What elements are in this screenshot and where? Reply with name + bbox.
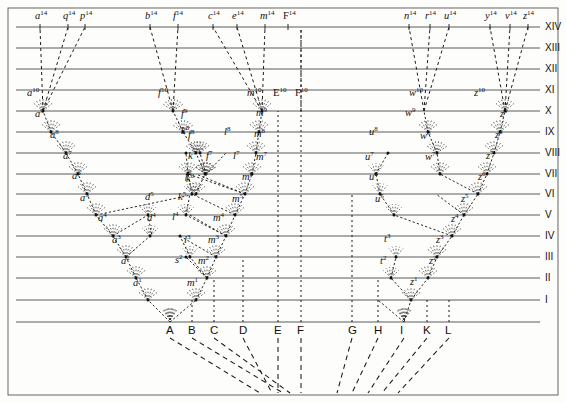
row-label-m10: m10	[247, 88, 262, 99]
node-label-m7: m7	[256, 152, 267, 163]
node-z6	[477, 193, 480, 196]
hair-m3-4	[213, 246, 216, 257]
top-label-c14: c14	[208, 11, 220, 22]
top-label-u14: u14	[444, 11, 456, 22]
baseline-species-C: C	[210, 325, 218, 337]
hair-m2-4	[204, 267, 207, 278]
node-label-k7: k7	[188, 151, 196, 162]
descent-line-K	[382, 338, 427, 393]
node-label-a6: a6	[72, 171, 81, 182]
hair-t3-1	[396, 247, 400, 257]
node-u5	[393, 214, 396, 217]
baseline-species-B: B	[188, 325, 196, 337]
hair-t3-3	[392, 247, 396, 257]
row-label-E10: E10	[273, 88, 286, 99]
node-label-a9: a9	[35, 109, 44, 120]
top-label-F14: F14	[283, 11, 296, 22]
variation-hairs	[34, 98, 514, 320]
hair-z2-4	[425, 267, 428, 278]
node-m4	[225, 235, 228, 238]
node-label-z5: z5	[461, 194, 469, 205]
node-label-l4: l4	[172, 212, 178, 223]
branch-w6b	[436, 194, 464, 215]
node-m5	[234, 214, 237, 217]
node-label-w9: w9	[405, 108, 416, 119]
hair-t2-3	[389, 267, 391, 278]
roman-numeral-XIII: XIII	[545, 43, 560, 53]
node-label-l7: l7	[233, 151, 239, 162]
node-m2	[206, 277, 209, 280]
node-m3	[215, 256, 218, 259]
node-label-a1: a1	[133, 278, 142, 289]
node-l4	[179, 235, 182, 238]
node-f7	[204, 173, 207, 176]
node-label-u5: u5	[375, 194, 384, 205]
node-label-t3: t3	[384, 234, 390, 245]
node-k6	[191, 193, 194, 196]
node-label-z9: z9	[500, 109, 508, 120]
hair-l7-2	[206, 162, 211, 174]
node-label-k5: k5	[178, 192, 186, 203]
hair-m5-4	[232, 204, 235, 215]
node-label-l3: l3	[184, 235, 190, 246]
roman-numeral-VIII: VIII	[545, 148, 560, 158]
node-label-a3: a3	[112, 235, 121, 246]
descent-line-G	[337, 338, 352, 393]
hair-f10-1	[173, 101, 181, 111]
hair-u5-2	[394, 204, 396, 215]
hair-z1-4	[408, 289, 411, 300]
below-baseline-lines	[170, 338, 449, 393]
node-z1	[410, 299, 413, 302]
baseline-species-A: A	[166, 325, 174, 337]
baseline-species-L: L	[445, 325, 451, 337]
descent-line-L	[398, 338, 449, 393]
node-label-a4: a4	[98, 213, 107, 224]
hair-l3-0	[190, 249, 197, 257]
node-d4	[149, 235, 152, 238]
node-label-w7: w7	[425, 152, 436, 163]
node-label-z6: z6	[478, 172, 486, 183]
node-label-t2: t2	[380, 256, 386, 267]
hair-d4-3	[148, 225, 150, 236]
hair-a1-2	[148, 289, 151, 300]
baseline-species-K: K	[423, 325, 431, 337]
top-label-p14: p14	[80, 11, 92, 22]
hair-u5-0	[394, 207, 402, 215]
branch-w7	[440, 174, 478, 194]
hair-z1-2	[411, 289, 414, 300]
hair-l8-4	[197, 142, 200, 153]
row-label-f10: f10	[158, 88, 168, 99]
descent-line-B	[192, 338, 283, 393]
hair-t3-0	[396, 249, 403, 257]
branch-w8	[437, 153, 440, 174]
top-label-m14: m14	[260, 11, 275, 22]
hair-w8-1	[437, 143, 445, 153]
node-a1	[147, 299, 150, 302]
node-k5	[185, 214, 188, 217]
node-w7	[439, 173, 442, 176]
node-f10	[172, 110, 175, 113]
hair-A-root-1	[170, 309, 176, 320]
top-label-q14: q14	[63, 11, 75, 22]
branch-a1	[148, 300, 170, 322]
node-z5	[463, 214, 466, 217]
node-label-w8: w8	[420, 131, 431, 142]
node-z4	[451, 235, 454, 238]
top-label-v14: v14	[505, 11, 517, 22]
roman-numeral-X: X	[545, 106, 552, 116]
horizontal-rules	[16, 27, 540, 322]
hair-k5-0	[186, 207, 194, 215]
node-label-z4: z4	[451, 214, 459, 225]
top-label-z14: z14	[523, 11, 534, 22]
top-label-a14: a14	[35, 11, 47, 22]
hair-z5-2	[464, 204, 467, 215]
node-label-f7: f7	[206, 151, 212, 162]
node-label-u7: u7	[365, 152, 374, 163]
node-label-m9: m9	[256, 108, 267, 119]
node-label-a5: a5	[80, 193, 89, 204]
row-label-a10: a10	[27, 88, 39, 99]
hair-k5-5	[178, 207, 186, 215]
hair-k6-2	[192, 183, 194, 194]
descent-line-A	[170, 338, 260, 393]
node-label-z8: z8	[495, 130, 503, 141]
